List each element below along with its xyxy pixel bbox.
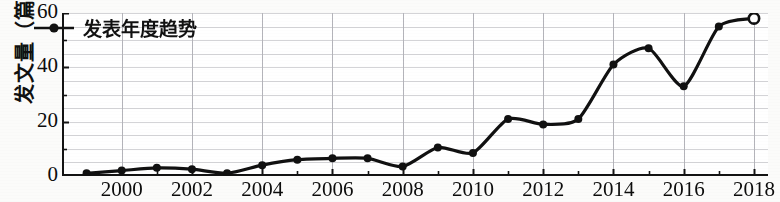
x-axis-tick-2006: 2006 <box>311 177 353 202</box>
x-axis-tick-2016: 2016 <box>663 177 705 202</box>
x-axis-tick-2014: 2014 <box>592 177 634 202</box>
x-axis-tick-2004: 2004 <box>241 177 283 202</box>
x-axis-tick-2002: 2002 <box>171 177 213 202</box>
y-axis-tick-40: 40 <box>16 53 58 78</box>
x-axis-tick-2010: 2010 <box>452 177 494 202</box>
x-axis-tick-2012: 2012 <box>522 177 564 202</box>
legend-marker-icon <box>32 21 76 35</box>
y-axis-tick-0: 0 <box>16 162 58 187</box>
line-chart: 发文量（篇） 0204060 2000200220042006200820102… <box>0 0 780 202</box>
x-axis-tick-2008: 2008 <box>382 177 424 202</box>
chart-legend: 发表年度趋势 <box>28 12 201 43</box>
legend-label: 发表年度趋势 <box>83 14 197 41</box>
x-axis-tick-labels: 2000200220042006200820102012201420162018 <box>62 176 768 202</box>
y-axis-tick-20: 20 <box>16 108 58 133</box>
x-axis-tick-2018: 2018 <box>733 177 775 202</box>
x-axis-tick-2000: 2000 <box>101 177 143 202</box>
